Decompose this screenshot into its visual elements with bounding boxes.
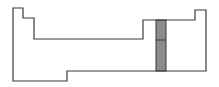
highlighted-column: [156, 20, 166, 71]
periodic-table-diagram: [0, 0, 219, 87]
table-outline: [13, 8, 206, 81]
